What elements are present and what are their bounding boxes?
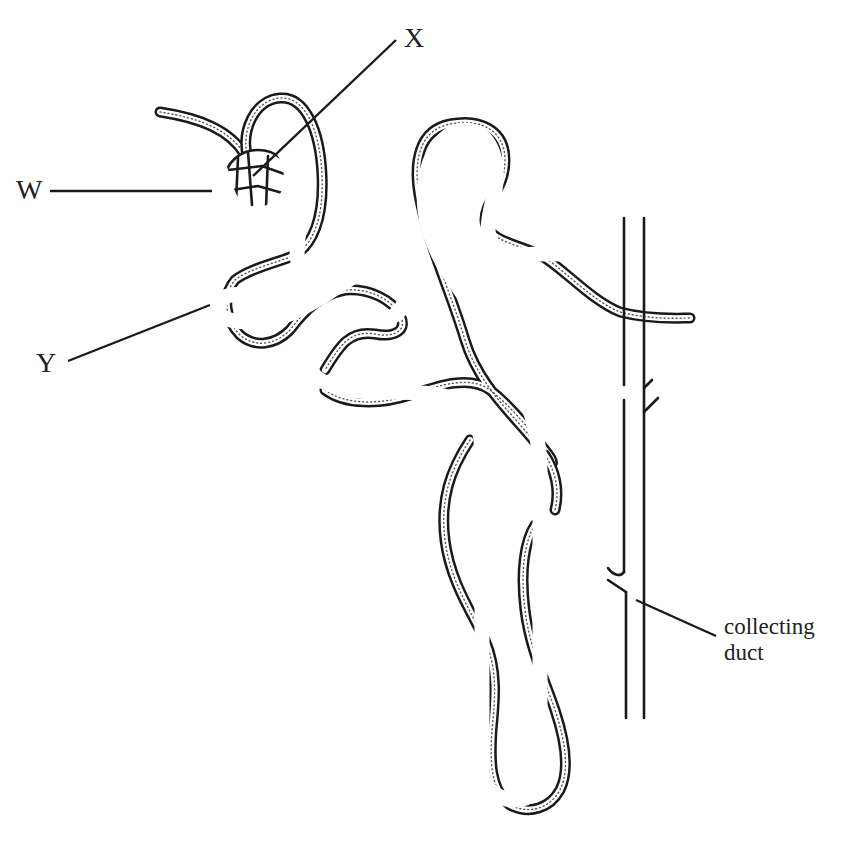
nephron-tubule: [204, 122, 625, 800]
label-w: W: [16, 176, 42, 204]
leader-collecting-duct: [636, 600, 716, 636]
leader-y: [68, 305, 210, 361]
collecting-duct: [608, 218, 658, 718]
label-collecting-duct-line2: duct: [724, 640, 815, 666]
label-x: X: [404, 24, 424, 52]
label-y: Y: [36, 349, 56, 377]
label-collecting-duct-line1: collecting: [724, 614, 815, 640]
label-collecting-duct: collecting duct: [724, 614, 815, 667]
nephron-diagram: [0, 0, 866, 847]
